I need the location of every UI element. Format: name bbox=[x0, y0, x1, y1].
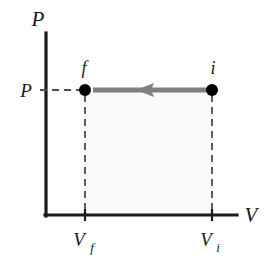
state-point-i-marker bbox=[206, 84, 218, 96]
state-point-f-label: f bbox=[81, 58, 89, 78]
shaded-work-region bbox=[85, 90, 212, 215]
pressure-tick-label: P bbox=[19, 80, 32, 101]
x-tick-label-volume-i-sub: i bbox=[216, 240, 220, 255]
x-axis-label: V bbox=[245, 203, 260, 227]
x-tick-label-volume-i: V i bbox=[200, 229, 220, 255]
y-axis-label: P bbox=[31, 7, 45, 31]
x-tick-label-volume-f: V f bbox=[73, 229, 96, 255]
x-tick-label-volume-f-sub: f bbox=[90, 240, 96, 255]
pv-diagram-figure: P V P f i V f V i bbox=[0, 0, 273, 262]
pv-diagram-canvas: P V P f i V f V i bbox=[0, 0, 273, 262]
state-point-i-label: i bbox=[210, 58, 215, 78]
x-tick-label-volume-f-main: V bbox=[73, 229, 87, 250]
x-tick-label-volume-i-main: V bbox=[200, 229, 214, 250]
state-point-f-marker bbox=[79, 84, 91, 96]
